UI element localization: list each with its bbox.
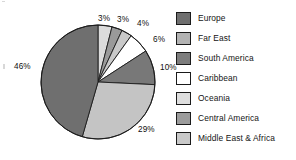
legend-item-central-america[interactable]: Central America xyxy=(176,108,296,128)
legend-label-caribbean: Caribbean xyxy=(198,74,238,82)
pie-chart-figure: 3%3%4%6%10%29%46% Europe Far East South … xyxy=(0,0,296,160)
legend-swatch-central-america xyxy=(176,112,191,125)
pie-plot-area: 3%3%4%6%10%29%46% xyxy=(0,0,180,160)
legend-item-europe[interactable]: Europe xyxy=(176,8,296,28)
legend-item-far-east[interactable]: Far East xyxy=(176,28,296,48)
legend-item-south-america[interactable]: South America xyxy=(176,48,296,68)
pie-percent-label: 29% xyxy=(138,126,155,134)
pie-percent-label: 3% xyxy=(117,16,129,24)
chart-legend: Europe Far East South America Caribbean … xyxy=(176,8,296,156)
pie-percent-label: 4% xyxy=(137,20,149,28)
pie-percent-label: 10% xyxy=(160,64,177,72)
legend-label-south-america: South America xyxy=(198,54,254,62)
legend-swatch-oceania xyxy=(176,92,191,105)
legend-label-central-america: Central America xyxy=(198,114,259,122)
pie-percent-label: 3% xyxy=(98,15,110,23)
pie-percent-label: 6% xyxy=(153,36,165,44)
legend-swatch-middle-east-africa xyxy=(176,132,191,145)
pie-slices-group xyxy=(41,25,155,139)
legend-label-europe: Europe xyxy=(198,14,226,22)
legend-label-far-east: Far East xyxy=(198,34,230,42)
legend-swatch-south-america xyxy=(176,52,191,65)
legend-swatch-caribbean xyxy=(176,72,191,85)
legend-item-oceania[interactable]: Oceania xyxy=(176,88,296,108)
legend-item-caribbean[interactable]: Caribbean xyxy=(176,68,296,88)
pie-svg xyxy=(0,0,180,160)
legend-label-oceania: Oceania xyxy=(198,94,230,102)
legend-swatch-europe xyxy=(176,12,191,25)
legend-swatch-far-east xyxy=(176,32,191,45)
pie-percent-label: 46% xyxy=(14,63,31,71)
legend-label-middle-east-africa: Middle East & Africa xyxy=(198,134,275,142)
legend-item-middle-east-africa[interactable]: Middle East & Africa xyxy=(176,128,296,148)
